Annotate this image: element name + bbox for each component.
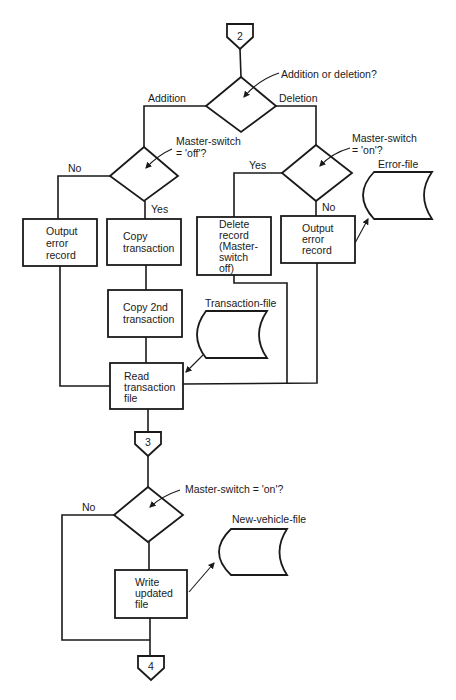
svg-text:New-vehicle-file: New-vehicle-file	[232, 513, 306, 525]
label-addition: Addition	[148, 92, 186, 104]
label-no-right: No	[322, 201, 336, 213]
connector-4: 4	[138, 656, 164, 680]
svg-text:2: 2	[237, 30, 243, 42]
svg-text:= 'on'?: = 'on'?	[352, 144, 383, 156]
svg-text:Master-switch: Master-switch	[352, 132, 417, 144]
decision-master-switch-on-final	[114, 487, 183, 542]
svg-text:Output: Output	[46, 225, 78, 237]
label-no-left: No	[68, 162, 82, 174]
process-delete-record: Delete record (Master- switch off)	[197, 217, 271, 275]
connector-2: 2	[227, 24, 253, 49]
file-new-vehicle: New-vehicle-file	[219, 513, 306, 575]
label-yes-left: Yes	[151, 203, 168, 215]
decision-addition-or-deletion	[206, 77, 276, 132]
label-no-final: No	[82, 501, 96, 513]
connector-3: 3	[135, 432, 161, 456]
file-error: Error-file	[363, 158, 432, 219]
svg-text:transaction: transaction	[123, 242, 175, 254]
process-write-updated-file: Write updated file	[115, 570, 187, 618]
process-read-transaction-file: Read transaction file	[110, 363, 183, 409]
svg-text:3: 3	[145, 436, 151, 448]
decision-master-switch-on	[282, 145, 352, 201]
flowchart: 2 Addition or deletion? Addition Deletio…	[0, 0, 456, 700]
svg-text:Master-switch: Master-switch	[176, 135, 241, 147]
svg-text:off): off)	[219, 262, 234, 274]
label-yes-right: Yes	[249, 159, 266, 171]
svg-text:transaction: transaction	[123, 313, 175, 325]
decision-master-switch-off	[110, 147, 178, 201]
process-output-error-left: Output error record	[23, 219, 97, 266]
svg-text:Error-file: Error-file	[378, 158, 418, 170]
question-add-or-delete: Addition or deletion?	[281, 68, 377, 80]
svg-text:Copy 2nd: Copy 2nd	[123, 301, 168, 313]
svg-text:4: 4	[148, 660, 154, 672]
svg-text:file: file	[124, 392, 138, 404]
svg-text:Copy: Copy	[123, 230, 148, 242]
process-output-error-right: Output error record	[281, 216, 355, 263]
process-copy-transaction: Copy transaction	[107, 219, 181, 265]
svg-text:record: record	[302, 244, 332, 256]
svg-text:record: record	[46, 249, 76, 261]
svg-text:Master-switch = 'on'?: Master-switch = 'on'?	[185, 483, 283, 495]
svg-text:Transaction-file: Transaction-file	[205, 297, 277, 309]
label-deletion: Deletion	[279, 92, 318, 104]
process-copy-2nd-transaction: Copy 2nd transaction	[108, 290, 182, 337]
file-transaction: Transaction-file	[197, 297, 277, 358]
svg-text:= 'off'?: = 'off'?	[176, 147, 207, 159]
svg-text:error: error	[46, 237, 69, 249]
svg-text:file: file	[135, 598, 149, 610]
